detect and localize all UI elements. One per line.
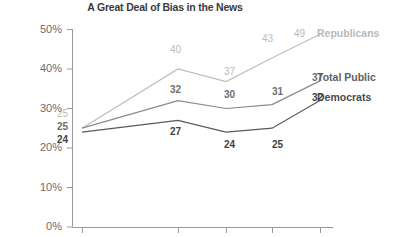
data-label-democrats-1: 24 [57,134,68,145]
data-label-democrats-4: 25 [272,139,283,150]
series-line-republicans [82,34,320,128]
legend-item-democrats: Democrats [317,91,371,103]
data-label-republicans-3: 37 [224,66,235,77]
data-label-total-public-3: 30 [224,89,235,100]
data-label-democrats-3: 24 [224,139,235,150]
series-line-democrats [82,101,320,133]
data-label-republicans-4: 43 [262,33,273,44]
y-tick-label-40: 40% [20,62,62,74]
x-axis-ticks [83,228,321,234]
data-label-total-public-2: 32 [170,84,181,95]
legend-item-total-public: Total Public [317,71,376,83]
data-label-republicans-1: 25 [57,108,68,119]
data-label-democrats-2: 27 [170,126,181,137]
y-tick-label-20: 20% [20,141,62,153]
y-tick-label-50: 50% [20,23,62,35]
y-tick-label-30: 30% [20,102,62,114]
data-label-republicans-2: 40 [170,44,181,55]
y-tick-label-0: 0% [20,220,62,232]
data-label-total-public-4: 31 [272,86,283,97]
legend-item-republicans: Republicans [317,27,379,39]
data-label-total-public-1: 25 [57,121,68,132]
chart-screenshot: A Great Deal of Bias in the News [0,0,398,237]
data-label-republicans-5: 49 [294,28,305,39]
y-tick-label-10: 10% [20,181,62,193]
